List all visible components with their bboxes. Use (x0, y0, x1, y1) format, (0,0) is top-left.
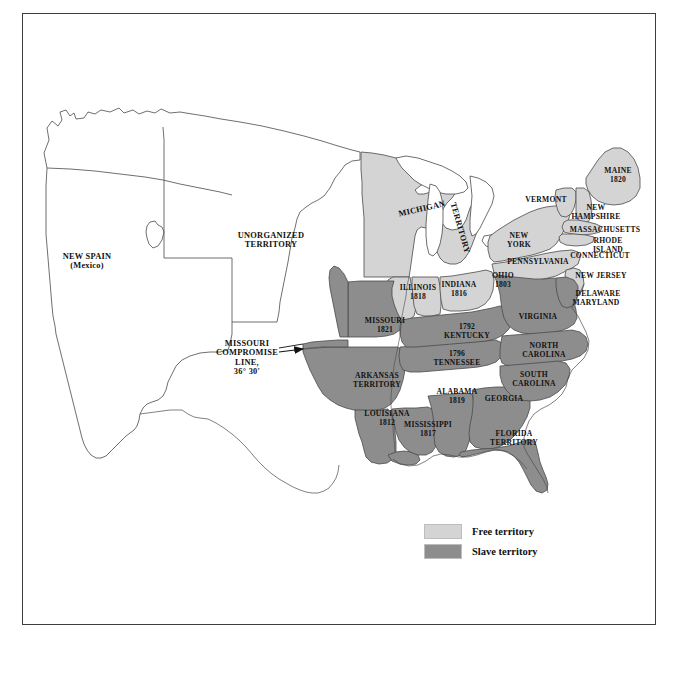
map-label-mississippi: MISSISSIPPI 1817 (404, 421, 452, 438)
slave-territory-swatch (424, 544, 462, 559)
map-label-maine: MAINE 1820 (604, 167, 631, 184)
map-label-massachusetts: MASSACHUSETTS (570, 226, 640, 235)
map-label-unorganized-territory: UNORGANIZED TERRITORY (238, 231, 305, 250)
map-label-vermont: VERMONT (525, 196, 566, 205)
map-label-new-hampshire: NEW HAMPSHIRE (571, 204, 620, 221)
map-label-illinois: ILLINOIS 1818 (400, 284, 437, 301)
map-label-missouri: MISSOURI 1821 (365, 317, 405, 334)
map-label-pennsylvania: PENNSYLVANIA (507, 258, 569, 267)
missouri-compromise-line-label: MISSOURI COMPROMISE LINE, 36° 30' (216, 339, 278, 377)
free-territory-swatch (424, 524, 462, 539)
map-label-louisiana: LOUISIANA 1812 (364, 410, 409, 427)
map-label-alabama: ALABAMA 1819 (437, 388, 478, 405)
map-label-new-york: NEW YORK (507, 232, 531, 249)
map-label-ohio: OHIO 1803 (492, 272, 514, 289)
map-label-new-spain: NEW SPAIN (Mexico) (63, 252, 112, 271)
legend-row-slave[interactable]: Slave territory (424, 544, 538, 559)
map-label-new-jersey: NEW JERSEY (575, 272, 627, 281)
missouri-compromise-map-figure: NEW SPAIN (Mexico)UNORGANIZED TERRITORYM… (0, 0, 678, 679)
map-label-virginia: VIRGINIA (519, 313, 558, 322)
map-label-kentucky: 1792 KENTUCKY (444, 323, 490, 340)
map-label-north-carolina: NORTH CAROLINA (522, 342, 565, 359)
legend-row-free[interactable]: Free territory (424, 524, 538, 539)
map-label-georgia: GEORGIA (485, 395, 523, 404)
map-label-tennessee: 1796 TENNESSEE (434, 350, 481, 367)
map-label-arkansas-territory: ARKANSAS TERRITORY (353, 372, 401, 389)
map-border-frame (22, 13, 656, 625)
slave-territory-label: Slave territory (472, 546, 538, 557)
map-label-maryland: MARYLAND (573, 299, 620, 308)
map-label-florida-territory: FLORIDA TERRITORY (490, 430, 538, 447)
map-label-indiana: INDIANA 1816 (441, 281, 476, 298)
map-label-south-carolina: SOUTH CAROLINA (512, 371, 555, 388)
free-territory-label: Free territory (472, 526, 534, 537)
map-legend: Free territory Slave territory (424, 524, 538, 564)
map-label-connecticut: CONNECTICUT (570, 252, 630, 261)
